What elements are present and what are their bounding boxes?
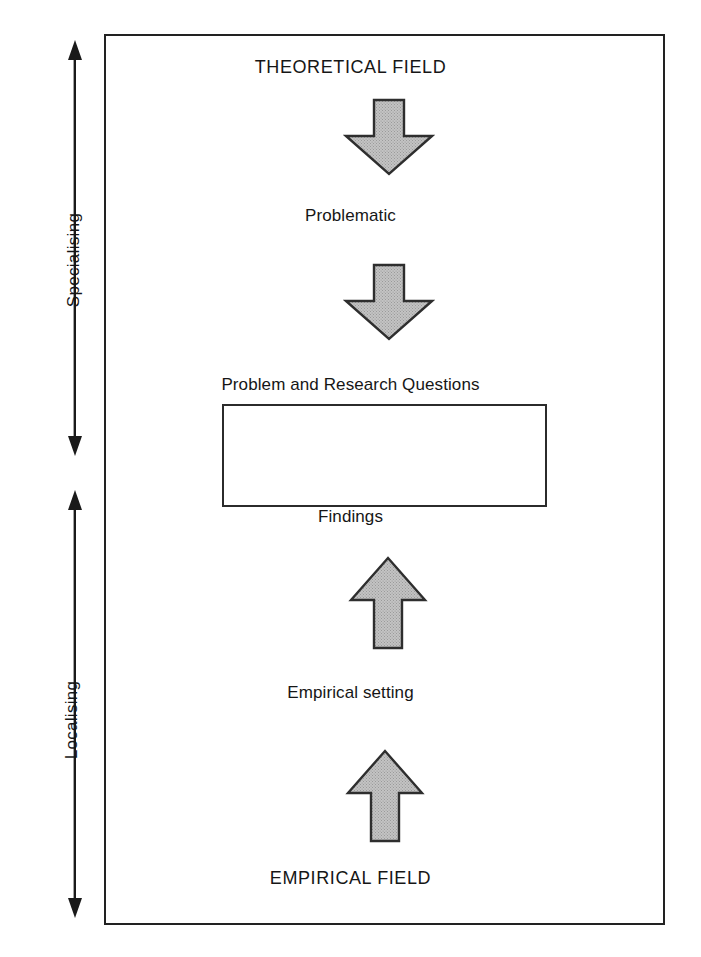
axis-specialising: Specialising — [62, 38, 88, 458]
research-process-diagram: Specialising Localising THEORETICAL FIEL… — [0, 0, 701, 957]
node-label-problem-and-research-questions: Problem and Research Questions — [0, 376, 701, 395]
node-label-problematic: Problematic — [0, 207, 701, 226]
node-label-empirical-setting: Empirical setting — [0, 684, 701, 703]
node-label-findings: Findings — [0, 508, 701, 527]
axis-localising-label: Localising — [62, 660, 82, 780]
axis-localising: Localising — [62, 488, 88, 920]
node-label-theoretical-field: THEORETICAL FIELD — [0, 58, 701, 78]
block-arrow-down-icon — [343, 98, 435, 176]
block-arrow-up-icon — [348, 555, 428, 651]
node-label-empirical-field: EMPIRICAL FIELD — [0, 869, 701, 889]
problem-questions-box — [222, 404, 547, 507]
block-arrow-up-icon — [345, 748, 425, 844]
block-arrow-down-icon — [343, 263, 435, 341]
